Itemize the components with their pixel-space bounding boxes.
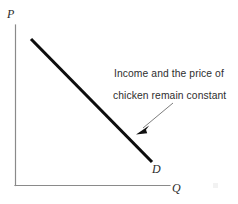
y-axis-label: P [6, 7, 15, 21]
demand-curve-figure: P Q D Income and the price of chicken re… [0, 0, 238, 204]
annotation-line-1: Income and the price of [114, 68, 224, 79]
demand-curve-svg: P Q D Income and the price of chicken re… [0, 0, 238, 204]
demand-curve-label: D [151, 162, 161, 176]
annotation-arrowhead-icon [136, 125, 149, 134]
x-axis-label: Q [172, 181, 181, 195]
scan-artifact [213, 183, 218, 188]
annotation-line-2: chicken remain constant [113, 90, 226, 101]
annotation-pointer-line [143, 103, 173, 128]
